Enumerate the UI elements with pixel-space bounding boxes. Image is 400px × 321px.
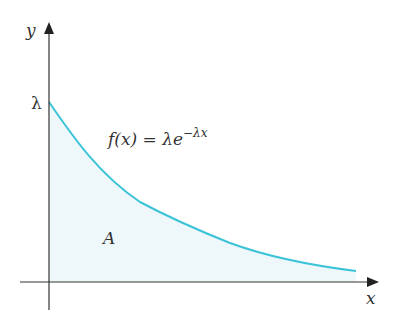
area-label: A	[101, 228, 115, 248]
x-axis-arrow-icon	[367, 277, 379, 287]
y-axis-label: y	[25, 20, 36, 40]
y-axis-arrow-icon	[44, 22, 54, 34]
y-intercept-label: λ	[31, 93, 42, 113]
function-label: f(x) = λe−λx	[106, 126, 208, 149]
function-exponent: −λx	[183, 126, 208, 140]
exponential-diagram: y x λ f(x) = λe−λx A	[0, 0, 400, 321]
x-axis-label: x	[366, 288, 376, 308]
